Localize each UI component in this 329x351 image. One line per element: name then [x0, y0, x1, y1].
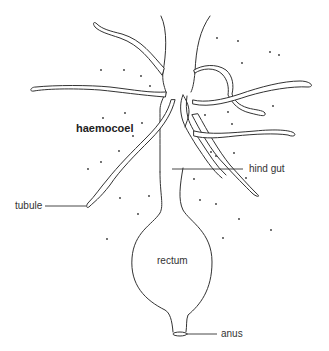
- haemocoel-dots: [87, 37, 280, 240]
- hind-gut-right-wall: [180, 168, 212, 332]
- insect-excretory-system-diagram: [0, 0, 329, 351]
- tubule-right: [193, 81, 311, 105]
- diagram-canvas: haemocoel hind gut tubule rectum anus: [0, 0, 329, 351]
- tubule-lower-left: [87, 100, 175, 208]
- anus-opening: [173, 332, 187, 336]
- haemocoel-label: haemocoel: [76, 123, 133, 134]
- tubule-left: [31, 86, 166, 98]
- gut-right-wall: [191, 16, 210, 92]
- anus-label: anus: [221, 329, 243, 339]
- tubule-upper-left: [94, 23, 164, 75]
- hind-gut-left-wall: [132, 172, 173, 332]
- rectum-label: rectum: [157, 256, 188, 266]
- tubule-label: tubule: [15, 201, 42, 211]
- tubule-middle-right: [194, 130, 295, 138]
- tubule-lower-right: [192, 114, 259, 196]
- hind-gut-label: hind gut: [249, 164, 285, 174]
